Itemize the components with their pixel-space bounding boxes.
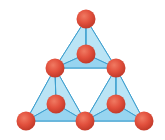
atom-sphere-icon [107, 95, 126, 114]
tetrahedron-faces [26, 19, 144, 121]
atom-sphere-icon [107, 59, 126, 78]
atom-sphere-icon [77, 45, 96, 64]
tetrahedra-diagram [0, 0, 165, 140]
atom-sphere-icon [17, 112, 36, 131]
atom-sphere-icon [77, 10, 96, 29]
atom-sphere-icon [47, 95, 66, 114]
atom-sphere-icon [135, 112, 154, 131]
atom-sphere-icon [76, 112, 95, 131]
molecular-structure-svg [0, 0, 165, 140]
atom-sphere-icon [46, 59, 65, 78]
